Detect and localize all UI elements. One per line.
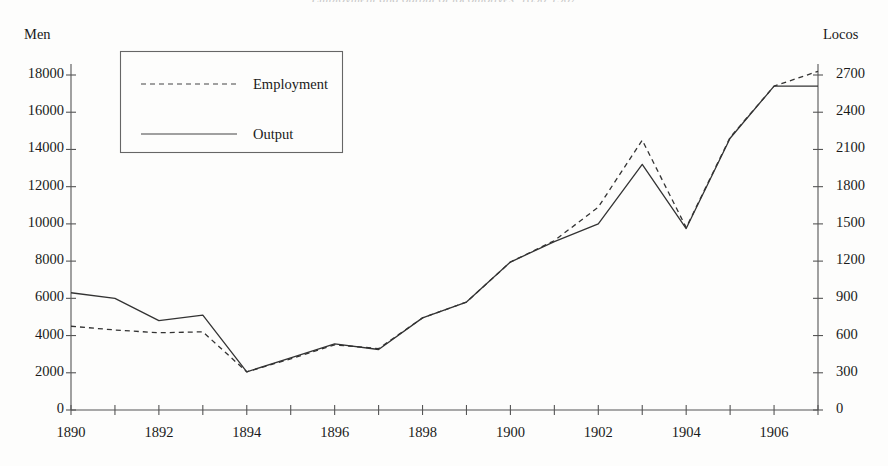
series-line-output xyxy=(71,86,818,372)
tick-marks xyxy=(66,75,823,415)
series-line-employment xyxy=(71,71,818,372)
axis-lines xyxy=(71,64,818,410)
data-series xyxy=(71,71,818,372)
chart-figure: Employment and output of locomotives, 18… xyxy=(0,0,888,466)
plot-area xyxy=(0,0,888,466)
legend-box xyxy=(121,52,343,153)
